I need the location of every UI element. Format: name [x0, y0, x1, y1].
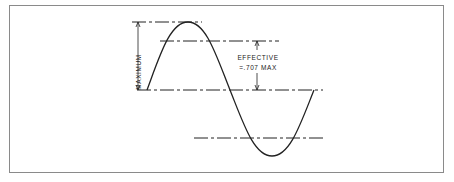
effective-ratio-label: =.707 MAX: [239, 64, 277, 71]
maximum-label: MAXIMUM: [135, 54, 142, 90]
sine-wave-diagram: MAXIMUM EFFECTIVE =.707 MAX: [0, 0, 454, 182]
effective-label: EFFECTIVE: [237, 54, 278, 61]
sine-wave: [147, 22, 314, 156]
